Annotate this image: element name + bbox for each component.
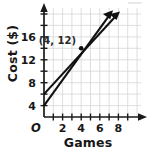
y-tick-label: 4: [28, 100, 36, 113]
chart-figure: 4 8 12 16 2 4 6 8 O (4, 12) Cost ($): [0, 0, 156, 156]
x-tick-label: 4: [77, 122, 85, 135]
x-axis-tick-labels: 2 4 6 8: [59, 122, 122, 135]
chart-plot-area: 4 8 12 16 2 4 6 8 O (4, 12): [0, 0, 156, 156]
x-axis-title: Games: [36, 135, 140, 150]
x-tick-label: 6: [96, 122, 104, 135]
scan-artifact: [128, 2, 142, 4]
y-tick-label: 12: [21, 54, 36, 67]
vertical-gridlines: [53, 8, 137, 117]
origin-label: O: [31, 121, 41, 135]
y-axis-arrowhead: [40, 3, 47, 12]
x-tick-label: 8: [115, 122, 123, 135]
data-point-label: (4, 12): [39, 35, 76, 46]
horizontal-gridlines: [44, 14, 141, 106]
x-axis-arrowhead: [138, 113, 147, 120]
data-point-marker: [79, 46, 84, 51]
x-tick-label: 2: [59, 122, 67, 135]
y-tick-label: 8: [28, 77, 36, 90]
y-tick-label: 16: [21, 31, 37, 44]
y-axis-tick-labels: 4 8 12 16: [21, 31, 37, 113]
x-axis: [44, 113, 147, 120]
series-line-1: [44, 11, 120, 94]
y-axis-title: Cost ($): [5, 18, 20, 90]
